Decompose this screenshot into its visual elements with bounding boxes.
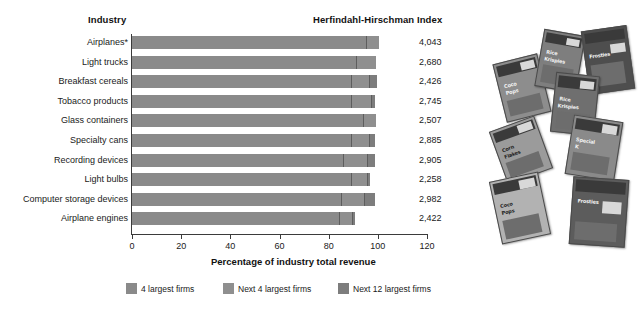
bar-segment	[351, 75, 369, 88]
bar-segment	[356, 56, 377, 69]
legend-swatch-icon	[126, 283, 137, 294]
x-tick-label: 40	[210, 241, 250, 251]
stacked-bar	[132, 36, 379, 49]
bar-segment	[132, 134, 351, 147]
bar-segment	[363, 114, 376, 127]
legend-item: Next 4 largest firms	[223, 282, 311, 295]
bar-segment	[132, 36, 366, 49]
legend-item: 4 largest firms	[126, 282, 194, 295]
bar-segment	[369, 75, 377, 88]
bar-segment	[364, 193, 375, 206]
bar-segment	[369, 134, 375, 147]
hhi-value: 2,745	[419, 95, 442, 108]
category-label: Airplane engines	[4, 212, 128, 225]
bar-segment	[352, 212, 355, 225]
category-label: Glass containers	[4, 114, 128, 127]
x-tick	[280, 234, 281, 239]
column-header-hhi: Herfindahl-Hirschman Index	[313, 14, 442, 25]
bar-segment	[132, 75, 351, 88]
legend-swatch-icon	[338, 283, 349, 294]
stacked-bar	[132, 212, 355, 225]
bar-segment	[367, 154, 375, 167]
stacked-bar	[132, 173, 370, 186]
bar-segment	[132, 212, 339, 225]
cereal-box: Frosties	[569, 176, 630, 248]
hhi-value: 2,507	[419, 114, 442, 127]
bar-segment	[132, 56, 356, 69]
category-label: Computer storage devices	[4, 193, 128, 206]
x-tick-label: 100	[358, 241, 398, 251]
chart-legend: 4 largest firmsNext 4 largest firmsNext …	[126, 282, 436, 296]
x-tick	[427, 234, 428, 239]
x-axis-title: Percentage of industry total revenue	[211, 256, 376, 267]
category-label: Tobacco products	[4, 95, 128, 108]
x-tick	[132, 234, 133, 239]
x-tick	[181, 234, 182, 239]
bar-segment	[132, 154, 343, 167]
bar-segment	[341, 193, 364, 206]
bar-segment	[132, 193, 341, 206]
stacked-bar	[132, 95, 375, 108]
hhi-value: 2,422	[419, 212, 442, 225]
category-label: Airplanes*	[4, 36, 128, 49]
legend-swatch-icon	[223, 283, 234, 294]
bar-segment	[371, 95, 374, 108]
bar-segment	[351, 173, 367, 186]
legend-label: Next 4 largest firms	[238, 284, 311, 294]
x-tick	[378, 234, 379, 239]
bar-segment	[367, 173, 370, 186]
hhi-value: 2,982	[419, 193, 442, 206]
hhi-value: 2,680	[419, 56, 442, 69]
column-header-industry: Industry	[88, 14, 126, 25]
stacked-bar	[132, 114, 376, 127]
figure-container: Industry Herfindahl-Hirschman Index 0204…	[0, 0, 643, 309]
category-label: Recording devices	[4, 154, 128, 167]
bar-segment	[339, 212, 352, 225]
hhi-value: 2,258	[419, 173, 442, 186]
category-label: Breakfast cereals	[4, 75, 128, 88]
x-tick	[329, 234, 330, 239]
stacked-bar	[132, 193, 375, 206]
x-tick	[230, 234, 231, 239]
bar-segment	[351, 134, 369, 147]
x-tick-label: 80	[309, 241, 349, 251]
stacked-bar	[132, 134, 375, 147]
bar-segment	[132, 114, 363, 127]
category-label: Light bulbs	[4, 173, 128, 186]
stacked-bar	[132, 75, 377, 88]
x-tick-label: 60	[260, 241, 300, 251]
hhi-value: 2,426	[419, 75, 442, 88]
bar-segment	[366, 36, 379, 49]
cereal-boxes-photo: Coco Pops Rice Krispies Frosties Rice Kr…	[481, 18, 641, 250]
category-label: Light trucks	[4, 56, 128, 69]
legend-item: Next 12 largest firms	[338, 282, 431, 295]
bar-segment	[132, 173, 351, 186]
x-tick-label: 20	[161, 241, 201, 251]
stacked-bar	[132, 56, 376, 69]
cereal-box: Coco Pops	[489, 172, 551, 245]
hhi-value: 2,885	[419, 134, 442, 147]
stacked-bar	[132, 154, 375, 167]
x-tick-label: 0	[112, 241, 152, 251]
bar-segment	[343, 154, 366, 167]
hhi-value: 4,043	[419, 36, 442, 49]
legend-label: Next 12 largest firms	[353, 284, 431, 294]
cereal-box: Special K	[565, 114, 624, 181]
x-tick-label: 120	[407, 241, 447, 251]
bar-segment	[351, 95, 372, 108]
category-label: Specialty cans	[4, 134, 128, 147]
bar-segment	[132, 95, 351, 108]
hhi-value: 2,905	[419, 154, 442, 167]
legend-label: 4 largest firms	[141, 284, 194, 294]
